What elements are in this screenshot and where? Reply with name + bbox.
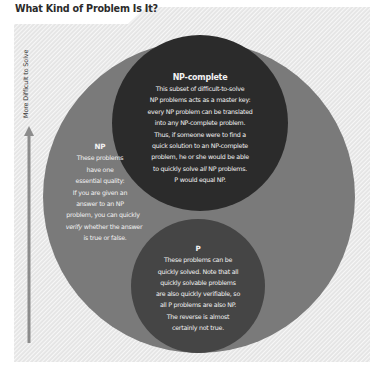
np-line: answer to an NP (44, 198, 156, 209)
p-line: The reverse is almost (136, 311, 260, 322)
p-title: P (136, 243, 260, 254)
np-complete-line: This subset of difficult-to-solve (122, 83, 278, 94)
p-line: These problems can be (136, 254, 260, 265)
np-complete-line: quick solution to an NP-complete (122, 140, 278, 151)
p-region-text: P These problems can be quickly solved. … (136, 243, 260, 333)
np-complete-all-post: NP problems. (206, 165, 247, 172)
p-line: are also quickly verifiable, so (136, 288, 260, 299)
np-verify-rest: whether the answer (82, 223, 142, 230)
np-line-verify: verify whether the answer (52, 221, 156, 232)
np-complete-region-text: NP-complete This subset of difficult-to-… (122, 72, 278, 186)
np-verify-emphasis: verify (66, 223, 82, 230)
np-complete-line: into any NP-complete problem. (122, 117, 278, 128)
p-line: certainly not true. (136, 322, 260, 333)
p-line: quickly solvable problems (136, 277, 260, 288)
np-complete-line-all: to quickly solve all NP problems. (122, 163, 278, 174)
np-complete-all-pre: to quickly solve (153, 165, 200, 172)
np-complete-title: NP-complete (122, 72, 278, 83)
axis-label: More Difficult to Solve (22, 50, 30, 118)
p-line: quickly solved. Note that all (136, 266, 260, 277)
np-complete-line: problem, he or she would be able (122, 151, 278, 162)
np-complete-line: every NP problem can be translated (122, 106, 278, 117)
np-complete-line: P would equal NP. (122, 174, 278, 185)
diagram-title: What Kind of Problem Is It? (15, 3, 158, 14)
np-complete-line: Thus, if someone were to find a (122, 129, 278, 140)
p-line: all P problems are also NP. (136, 299, 260, 310)
np-complete-line: NP problems acts as a master key: (122, 94, 278, 105)
np-line: is true or false. (54, 232, 156, 243)
np-line: If you are given an (44, 187, 156, 198)
np-line: problem, you can quickly (50, 209, 156, 220)
